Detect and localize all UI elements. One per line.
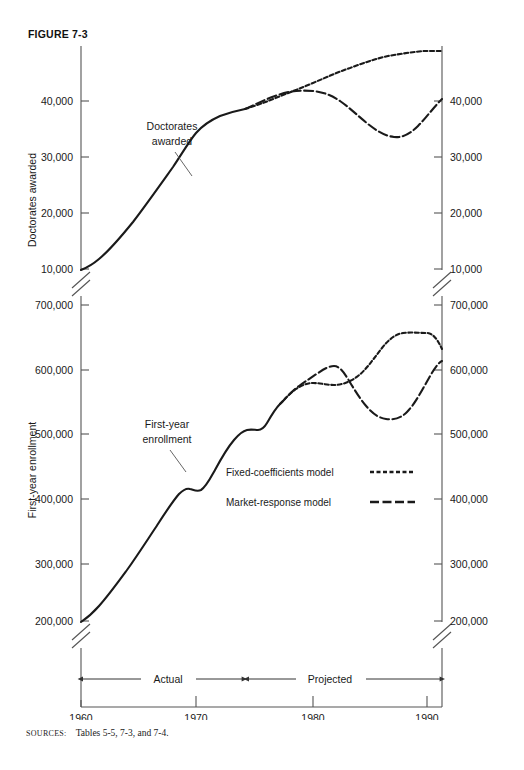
series-label-top-line1: Doctorates xyxy=(147,120,198,132)
sources-line: SOURCES:Tables 5-5, 7-3, and 7-4. xyxy=(26,728,169,738)
period-actual-label: Actual xyxy=(153,673,182,685)
doctorates-fixed-coefficients-line xyxy=(245,51,442,109)
ytick-label-lower-right-2: 500,000 xyxy=(450,428,488,440)
enrollment-fixed-coefficients-line xyxy=(280,333,442,404)
xtick-label-1980: 1980 xyxy=(301,712,325,720)
legend-label-market-response: Market-response model xyxy=(226,497,331,508)
ytick-label-lower-right-4: 300,000 xyxy=(450,558,488,570)
legend-label-fixed-coefficients: Fixed-coefficients model xyxy=(226,467,334,478)
break-slash-foot-left-b xyxy=(72,632,90,648)
ytick-label-upper-1: 30,000 xyxy=(41,151,73,163)
legend-item-fixed-coefficients[interactable]: Fixed-coefficients model xyxy=(226,467,415,478)
ytick-label-upper-right-2: 20,000 xyxy=(450,207,482,219)
ytick-label-upper-0: 40,000 xyxy=(41,95,73,107)
legend: Fixed-coefficients model Market-response… xyxy=(226,467,415,508)
upper-y-ticks: 40,000 40,000 30,000 30,000 20,000 20,00… xyxy=(41,95,482,275)
axis-lines xyxy=(81,46,442,707)
period-actual: Actual xyxy=(83,673,242,685)
break-slash-right-b xyxy=(433,280,451,296)
series-label-bottom-line1: First-year xyxy=(145,418,190,430)
upper-panel-series xyxy=(81,51,442,270)
ytick-label-upper-3: 10,000 xyxy=(41,263,73,275)
ytick-label-lower-right-0: 700,000 xyxy=(450,299,488,311)
ytick-label-upper-2: 20,000 xyxy=(41,207,73,219)
series-leader-line-bottom xyxy=(170,450,186,472)
axis-break-marks xyxy=(72,272,451,648)
ytick-label-upper-right-1: 30,000 xyxy=(450,151,482,163)
enrollment-market-response-line xyxy=(280,361,442,419)
chart-canvas: 40,000 40,000 30,000 30,000 20,000 20,00… xyxy=(0,0,524,720)
series-label-bottom-line2: enrollment xyxy=(142,433,191,445)
break-slash-right-a xyxy=(433,272,451,288)
sources-text: Tables 5-5, 7-3, and 7-4. xyxy=(76,728,169,738)
break-slash-foot-right-a xyxy=(433,624,451,640)
x-ticks: 1960 1970 1980 1990 xyxy=(69,696,439,720)
period-projected: Projected xyxy=(249,673,440,685)
break-slash-foot-right-b xyxy=(433,632,451,648)
figure-title: FIGURE 7-3 xyxy=(28,28,88,40)
series-label-top-line2: awarded xyxy=(152,135,192,147)
period-projected-label: Projected xyxy=(308,673,353,685)
lower-y-ticks: 700,000 700,000 600,000 600,000 500,000 … xyxy=(35,299,488,627)
ytick-label-lower-4: 300,000 xyxy=(35,558,73,570)
ytick-label-upper-right-3: 10,000 xyxy=(450,263,482,275)
break-slash-foot-left-a xyxy=(72,624,90,640)
ytick-label-lower-0: 700,000 xyxy=(35,299,73,311)
xtick-label-1970: 1970 xyxy=(184,712,208,720)
figure-root: FIGURE 7-3 xyxy=(0,0,524,770)
legend-item-market-response[interactable]: Market-response model xyxy=(226,497,415,508)
doctorates-actual-line xyxy=(81,109,245,270)
ytick-label-lower-1: 600,000 xyxy=(35,364,73,376)
upper-axis-title: Doctorates awarded xyxy=(26,153,38,247)
series-leader-line-top xyxy=(175,152,192,176)
sources-label: SOURCES: xyxy=(26,729,67,738)
ytick-label-lower-2: 500,000 xyxy=(35,428,73,440)
ytick-label-lower-5: 200,000 xyxy=(35,615,73,627)
ytick-label-lower-right-1: 600,000 xyxy=(450,364,488,376)
break-slash-left-a xyxy=(72,272,90,288)
lower-axis-title: First-year enrollment xyxy=(26,422,38,518)
xtick-label-1990: 1990 xyxy=(415,712,439,720)
ytick-label-lower-3: 400,000 xyxy=(35,493,73,505)
ytick-label-lower-right-3: 400,000 xyxy=(450,493,488,505)
ytick-label-lower-right-5: 200,000 xyxy=(450,615,488,627)
break-slash-left-b xyxy=(72,280,90,296)
series-callout-bottom: First-year enrollment xyxy=(142,418,191,472)
ytick-label-upper-right-0: 40,000 xyxy=(450,95,482,107)
xtick-label-1960: 1960 xyxy=(69,712,93,720)
